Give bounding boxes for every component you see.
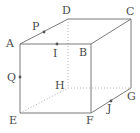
vertex-label-D: D — [62, 5, 71, 16]
solid-edge-group — [20, 19, 131, 113]
vertex-label-F: F — [86, 115, 94, 126]
vertex-label-C: C — [126, 6, 134, 17]
vertex-label-G: G — [127, 91, 136, 102]
vertex-label-H: H — [55, 80, 65, 91]
point-label-I: I — [53, 48, 57, 59]
point-dot-Q — [19, 76, 22, 79]
point-label-Q: Q — [7, 72, 16, 83]
vertex-label-A: A — [6, 38, 14, 49]
point-dot-P — [43, 31, 46, 34]
cube-figure: ABCDEFGHPQIJ — [0, 0, 140, 133]
point-label-J: J — [107, 103, 111, 114]
point-marker-group — [19, 31, 113, 103]
point-dot-I — [56, 43, 59, 46]
point-label-P: P — [32, 21, 39, 32]
cube-drawing — [0, 0, 140, 133]
vertex-label-B: B — [79, 47, 87, 58]
vertex-label-E: E — [9, 115, 17, 126]
edge-B-C — [91, 19, 131, 44]
